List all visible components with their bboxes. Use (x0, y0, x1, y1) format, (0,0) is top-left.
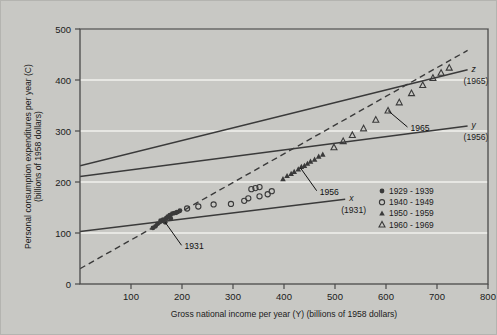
ytick-label-200: 200 (55, 177, 71, 188)
ytick-label-100: 100 (55, 228, 71, 239)
data-point-s0-13 (168, 216, 173, 221)
y-axis-title-line1: Personal consumption expenditures per ye… (23, 64, 33, 249)
x-axis-title: Gross national income per year (Y) (bill… (171, 309, 398, 319)
ytick-label-0: 0 (66, 279, 71, 290)
ytick-label-500: 500 (55, 24, 71, 35)
legend-label-2: 1950 - 1959 (389, 208, 434, 218)
legend-label-3: 1960 - 1969 (389, 220, 434, 230)
ytick-label-300: 300 (55, 126, 71, 137)
data-point-s0-11 (151, 226, 156, 231)
xtick-label-800: 800 (480, 291, 496, 302)
reference-line-label-x: x (348, 193, 354, 203)
xtick-label-200: 200 (174, 291, 190, 302)
annotation-label-1931: 1931 (185, 241, 204, 251)
legend-label-0: 1929 - 1939 (389, 186, 434, 196)
ytick-label-400: 400 (55, 75, 71, 86)
annotation-label-1956: 1956 (320, 187, 339, 197)
annotation-label-1965: 1965 (410, 123, 429, 133)
reference-line-year-z: (1965) (464, 76, 489, 86)
plot-area (80, 29, 488, 284)
chart-figure: x(1931)y(1956)z(1965)1931195619651002003… (0, 0, 497, 335)
scatter-chart: x(1931)y(1956)z(1965)1931195619651002003… (1, 1, 497, 335)
reference-line-label-z: z (471, 64, 477, 74)
xtick-label-600: 600 (378, 291, 394, 302)
xtick-label-400: 400 (276, 291, 292, 302)
xtick-label-100: 100 (123, 291, 139, 302)
xtick-label-500: 500 (327, 291, 343, 302)
y-axis-title-line2: (billions of 1958 dollars) (33, 111, 43, 202)
legend-marker-0 (380, 189, 385, 194)
reference-line-year-x: (1931) (341, 205, 366, 215)
xtick-label-300: 300 (225, 291, 241, 302)
reference-line-year-y: (1956) (464, 132, 489, 142)
legend-label-1: 1940 - 1949 (389, 197, 434, 207)
xtick-label-700: 700 (429, 291, 445, 302)
data-point-s0-9 (178, 208, 183, 213)
reference-line-label-y: y (471, 120, 477, 130)
